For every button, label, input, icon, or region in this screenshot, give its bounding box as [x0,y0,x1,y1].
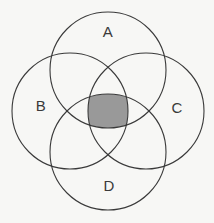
set-label-d: D [103,177,114,194]
venn-diagram-figure: A B C D [0,0,214,223]
set-label-a: A [103,23,113,40]
set-label-c: C [171,99,182,116]
set-label-b: B [36,97,46,114]
venn-diagram-canvas: A B C D [0,0,214,223]
